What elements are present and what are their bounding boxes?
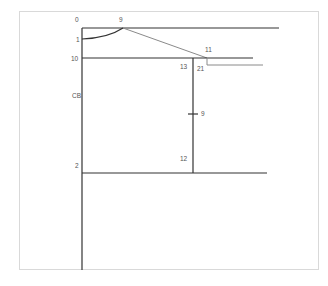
label-13: 13 (180, 64, 187, 71)
label-0: 0 (75, 17, 79, 24)
label-11: 11 (205, 47, 212, 54)
neckline-curve (82, 28, 123, 39)
pattern-draft-drawing (0, 0, 328, 286)
step-line (207, 58, 263, 65)
label-10: 10 (71, 56, 78, 63)
label-9-top: 9 (119, 17, 123, 24)
label-21: 21 (197, 66, 204, 73)
shoulder-line (123, 28, 207, 58)
label-2: 2 (75, 163, 79, 170)
label-12: 12 (180, 156, 187, 163)
label-1: 1 (76, 37, 80, 44)
label-cb: CB (72, 93, 81, 100)
label-9-mid: 9 (201, 111, 205, 118)
